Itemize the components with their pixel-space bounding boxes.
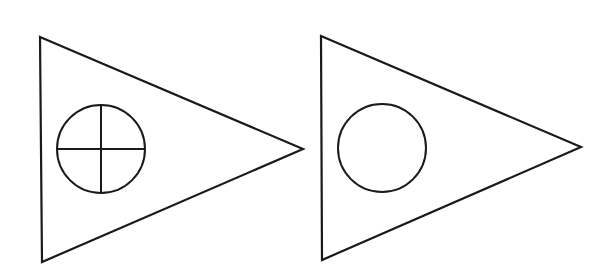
figure-left: [40, 37, 303, 262]
right-circle: [338, 104, 426, 192]
figure-right: [321, 36, 581, 260]
right-triangle: [321, 36, 581, 260]
diagram-canvas: [0, 0, 611, 273]
